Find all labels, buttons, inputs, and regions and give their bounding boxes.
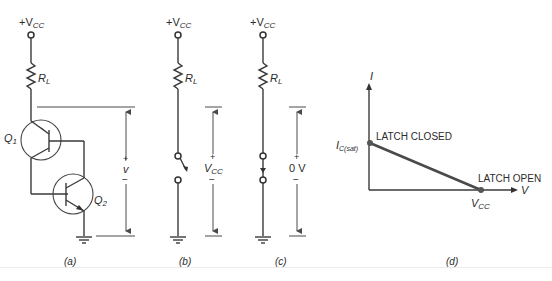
resistor-rl-a [27,63,35,89]
panel-a: +VCC RL Q1 Q2 [4,16,135,267]
switch-contact-bottom-c [260,177,266,183]
plus-sign-c: + [294,152,299,162]
vcc-terminal-a [28,32,34,38]
switch-contact-top-c [260,153,266,159]
vcc-terminal-c [260,32,266,38]
caption-a: (a) [64,256,76,267]
vcc-label-b: +VCC [166,16,192,30]
rl-label-c: RL [270,72,282,86]
ground-icon-a [76,237,92,243]
arrow-right-icon [511,187,518,193]
divider [0,267,552,268]
q1-label: Q1 [4,132,17,146]
vcc-label-c: +VCC [250,16,276,30]
vcc-terminal-b [175,32,181,38]
latch-figure: +VCC RL Q1 Q2 [0,0,552,281]
panel-d: I V IC(sat) LATCH CLOSED LATCH OPEN VCC … [336,70,541,267]
x-axis-label: V [521,184,530,196]
rl-label-a: RL [38,72,50,86]
panel-b: +VCC RL + VCC − (b) [166,16,223,267]
latch-open-point [478,187,484,193]
caption-d: (d) [446,256,458,267]
minus-sign-a: − [122,174,128,185]
vcc-label-a: +VCC [19,16,45,30]
arrow-up-icon [366,83,372,90]
latch-closed-label: LATCH CLOSED [376,131,452,142]
voltage-label-c: 0 V [289,162,306,174]
minus-sign-b: − [209,174,215,185]
switch-contact-bottom-b [175,177,181,183]
ground-icon-c [255,237,271,243]
resistor-rl-b [174,63,182,89]
minus-sign-c: − [293,174,299,185]
ground-icon-b [170,237,186,243]
vcc-axis-label: VCC [471,197,490,211]
latch-closed-point [367,140,373,146]
caption-c: (c) [275,256,287,267]
q2-label: Q2 [94,194,108,208]
ic-sat-label: IC(sat) [336,139,358,153]
y-axis-label: I [370,70,373,82]
load-line [370,143,481,190]
resistor-rl-c [259,63,267,89]
caption-b: (b) [179,256,191,267]
panel-c: +VCC RL + 0 V − (c) [250,16,306,267]
plus-sign-b: + [210,152,215,162]
rl-label-b: RL [185,72,197,86]
latch-open-label: LATCH OPEN [478,173,541,184]
transistor-q1 [21,120,84,160]
